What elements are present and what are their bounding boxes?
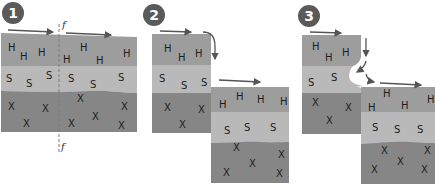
step-badge-1: 1 — [2, 2, 24, 24]
hard-label: H — [236, 91, 244, 102]
step-number: 2 — [149, 7, 159, 23]
fault-label-bottom: f — [60, 141, 67, 152]
waterfall-formation-diagram: 1 f f H H H H H H H S S S S S S X X X X … — [0, 0, 435, 188]
base-label: X — [421, 164, 428, 175]
hard-label: H — [96, 55, 104, 66]
base-label: X — [42, 103, 49, 114]
panel-1: 1 f f H H H H H H H S S S S S S X X X X … — [1, 2, 137, 152]
base-label: X — [276, 168, 283, 179]
hard-label: H — [312, 41, 320, 52]
hard-label: H — [342, 47, 350, 58]
river-flow-arrow — [160, 31, 191, 32]
base-rock-layer — [302, 93, 361, 134]
hard-label: H — [164, 43, 172, 54]
soft-label: S — [201, 77, 207, 88]
step-badge-3: 3 — [298, 5, 320, 27]
base-label: X — [326, 115, 333, 126]
step-badge-2: 2 — [143, 4, 165, 26]
plunge-pool-arrow — [357, 61, 366, 72]
soft-label: S — [159, 73, 165, 84]
soft-label: S — [68, 73, 74, 84]
soft-label: S — [244, 122, 250, 133]
base-label: X — [345, 102, 352, 113]
panel-3: 3 H H H S S X X X H H H H S S — [298, 5, 435, 184]
base-label: X — [118, 120, 125, 131]
hard-label: H — [219, 99, 227, 110]
hard-label: H — [38, 47, 46, 58]
hard-label: H — [20, 51, 28, 62]
river-flow-arrow — [310, 32, 341, 33]
base-label: X — [179, 119, 186, 130]
soft-label: S — [308, 77, 314, 88]
hard-label: H — [383, 88, 391, 99]
river-flow-arrow — [8, 30, 53, 32]
base-label: X — [92, 111, 99, 122]
hard-label: H — [368, 102, 376, 113]
soft-label: S — [372, 122, 378, 133]
soft-label: S — [417, 124, 423, 135]
soft-label: S — [6, 73, 12, 84]
hard-label: H — [325, 52, 333, 63]
soft-label: S — [46, 70, 52, 81]
hard-label: H — [427, 94, 435, 105]
soft-label: S — [181, 80, 187, 91]
soft-label: S — [394, 124, 400, 135]
hard-label: H — [123, 48, 131, 59]
step-number: 3 — [304, 8, 314, 24]
base-label: X — [278, 149, 285, 160]
panel-2: 2 H H H S S S X X X H H H H S S S — [143, 4, 289, 183]
base-label: X — [198, 104, 205, 115]
hard-label: H — [8, 42, 16, 53]
base-label: X — [312, 97, 319, 108]
base-label: X — [381, 145, 388, 156]
hard-label: H — [178, 52, 186, 63]
base-label: X — [371, 164, 378, 175]
river-flow-arrow — [380, 83, 421, 85]
hard-label: H — [257, 94, 265, 105]
base-label: X — [68, 118, 75, 129]
base-label: X — [121, 101, 128, 112]
hard-label: H — [280, 96, 288, 107]
hard-label: H — [195, 48, 203, 59]
hard-label: H — [401, 100, 409, 111]
soft-label: S — [331, 72, 337, 83]
hard-label: H — [80, 42, 88, 53]
base-label: X — [77, 93, 84, 104]
hard-label: H — [63, 54, 71, 65]
base-label: X — [397, 156, 404, 167]
river-flow-arrow — [219, 80, 260, 82]
plunge-pool-arrow — [366, 74, 374, 82]
soft-label: S — [90, 79, 96, 90]
base-label: X — [164, 102, 171, 113]
base-label: X — [233, 142, 240, 153]
base-label: X — [23, 118, 30, 129]
soft-label: S — [224, 125, 230, 136]
fault-label-top: f — [61, 19, 68, 30]
base-label: X — [424, 145, 431, 156]
soft-label: S — [26, 78, 32, 89]
base-label: X — [249, 158, 256, 169]
soft-label: S — [118, 72, 124, 83]
soft-label: S — [270, 122, 276, 133]
base-label: X — [8, 101, 15, 112]
river-flow-arrow — [66, 33, 111, 35]
step-number: 1 — [8, 5, 18, 21]
base-label: X — [223, 167, 230, 178]
